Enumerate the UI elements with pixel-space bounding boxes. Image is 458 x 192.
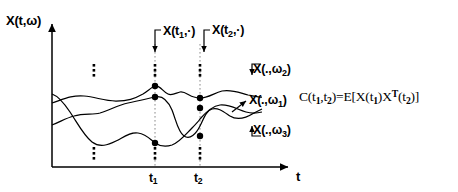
x-axis-label: t — [296, 170, 300, 183]
point-t2-omega1 — [197, 105, 203, 111]
realization-label-omega1: X(.,ω1) — [249, 94, 287, 109]
figure-canvas: X(t,ω) t t1 t2 X(t1,·) X(t2,·) X(.,ω2) X… — [0, 0, 458, 192]
realization-label-omega2-tail: ) — [287, 62, 291, 76]
slice-label-t1-base: X(t — [163, 24, 179, 38]
curve-omega1 — [52, 97, 262, 138]
realization-label-omega3-tail: ) — [287, 123, 291, 137]
tick-label-t1: t1 — [149, 172, 157, 186]
vertical-ellipsis-lower-left — [93, 147, 96, 160]
leader-xt2 — [204, 30, 210, 52]
tick-label-t1-sub: 1 — [153, 176, 158, 186]
time-slice-lines — [155, 44, 200, 167]
vertical-ellipsis-upper-left — [93, 64, 96, 77]
tick-label-t2: t2 — [194, 172, 202, 186]
vertical-ellipsis-t1-lower — [154, 147, 157, 160]
curve-omega3 — [52, 94, 262, 146]
vertical-ellipsis-t2-lower — [199, 147, 202, 160]
formula-tail: )] — [411, 89, 420, 104]
realization-label-omega2: X(.,ω2) — [253, 63, 291, 78]
leader-omega1 — [232, 101, 246, 112]
slice-label-t1: X(t1,·) — [163, 25, 195, 40]
vertical-ellipsis-t2-upper — [199, 64, 202, 77]
formula-mid3: (t — [398, 89, 406, 104]
point-t1-omega3 — [152, 140, 158, 146]
realization-label-omega1-base: X(.,ω — [249, 93, 278, 107]
slice-label-t2-base: X(t — [212, 23, 228, 37]
point-t1-omega2 — [152, 83, 158, 89]
vertical-ellipsis-t1-upper — [154, 64, 157, 77]
point-t1-omega1 — [152, 94, 158, 100]
realization-label-omega3-base: X(.,ω — [253, 123, 282, 137]
slice-label-t2: X(t2,·) — [212, 24, 244, 39]
formula-eq: )=E[X(t — [332, 89, 373, 104]
realization-label-omega3: X(.,ω3) — [253, 124, 291, 139]
formula-mid2: )X — [378, 89, 392, 104]
correlation-formula: C(t1,t2)=E[X(t1)XT(t2)] — [299, 89, 419, 106]
y-axis-label: X(t,ω) — [6, 14, 41, 27]
point-t2-omega2 — [197, 95, 203, 101]
vertical-ellipses-group — [93, 64, 202, 160]
realization-label-omega2-base: X(.,ω — [253, 62, 282, 76]
realization-label-omega1-tail: ) — [283, 93, 287, 107]
slice-label-t2-tail: ,·) — [233, 23, 244, 37]
formula-lhs-base: C(t — [299, 89, 316, 104]
point-t2-omega3 — [197, 133, 203, 139]
leader-xt1 — [155, 30, 161, 52]
tick-label-t2-sub: 2 — [198, 176, 203, 186]
slice-label-t1-tail: ,·) — [184, 24, 195, 38]
